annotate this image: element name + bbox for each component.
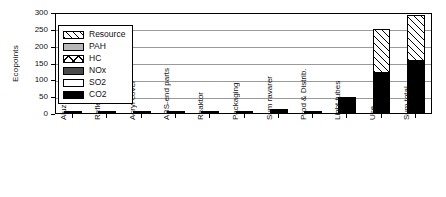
x-axis-tick-label: Packaging: [231, 83, 240, 120]
legend-swatch-co2: [63, 91, 84, 99]
bar-segment-resource: [407, 15, 425, 60]
legend-swatch-so2: [63, 79, 84, 87]
x-axis-tick-mark: [312, 114, 313, 118]
x-axis-tick-mark: [244, 114, 245, 118]
y-axis-tick-label: 100: [20, 75, 48, 84]
x-axis-tick-label: Prod & Distrib.: [299, 68, 308, 120]
y-axis-tick-label: 50: [20, 92, 48, 101]
x-axis-tick-label: Light tubes: [333, 81, 342, 120]
legend-item-so2: SO2: [63, 77, 125, 88]
legend-label: NOx: [89, 66, 106, 75]
legend-swatch-nox: [63, 67, 84, 75]
legend-label: CO2: [89, 90, 106, 99]
x-axis-tick-mark: [175, 114, 176, 118]
x-axis-tick-label: Sum ravarer: [265, 76, 274, 120]
y-axis-tick-mark: [51, 114, 55, 115]
bar-segment-resource: [373, 29, 391, 73]
x-axis-tick-mark: [415, 114, 416, 118]
x-axis-tick-label: Reaktor: [196, 92, 205, 120]
legend-item-nox: NOx: [63, 65, 125, 76]
x-axis-tick-mark: [278, 114, 279, 118]
bar: [373, 29, 391, 113]
y-axis-tick-label: 200: [20, 42, 48, 51]
y-axis-tick-label: 0: [20, 109, 48, 118]
legend-label: Resource: [89, 30, 125, 39]
x-axis-tick-mark: [209, 114, 210, 118]
x-axis-tick-mark: [106, 114, 107, 118]
x-axis-tick-mark: [72, 114, 73, 118]
x-axis-tick-mark: [381, 114, 382, 118]
x-axis-tick-mark: [346, 114, 347, 118]
legend-swatch-pah: [63, 43, 84, 51]
x-axis-tick-label: Use: [368, 106, 377, 120]
x-axis-tick-mark: [141, 114, 142, 118]
legend-label: SO2: [89, 78, 106, 87]
legend-item-pah: PAH: [63, 41, 125, 52]
legend-label: HC: [89, 54, 101, 63]
legend-swatch-res: [63, 31, 84, 39]
legend-item-hc: HC: [63, 53, 125, 64]
chart-container: Ecopoints 050100150200250300 AluzinkRefl…: [0, 0, 446, 197]
legend-item-res: Resource: [63, 29, 125, 40]
legend-label: PAH: [89, 42, 106, 51]
y-axis-tick-label: 300: [20, 8, 48, 17]
y-axis-tick-label: 250: [20, 25, 48, 34]
legend-item-co2: CO2: [63, 89, 125, 100]
chart-legend: ResourcePAHHCNOxSO2CO2: [58, 25, 133, 104]
legend-swatch-hc: [63, 55, 84, 63]
x-axis-tick-label: ABS-end parts: [162, 68, 171, 120]
x-axis-tick-label: Sum total: [402, 86, 411, 120]
y-axis-tick-label: 150: [20, 59, 48, 68]
